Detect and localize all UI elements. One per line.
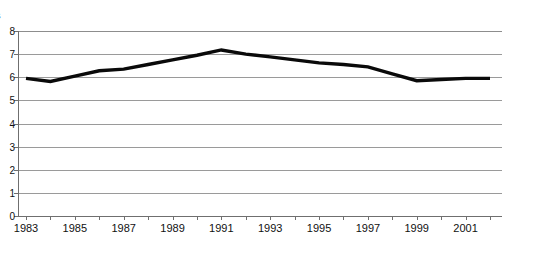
line-chart: llions 876543210 19831985198719891991199… bbox=[0, 0, 533, 256]
x-axis-label: 1997 bbox=[356, 222, 380, 234]
y-axis-label: 3 bbox=[9, 142, 15, 153]
y-axis-label: 0 bbox=[9, 211, 15, 222]
x-axis-label: 1995 bbox=[307, 222, 331, 234]
x-axis-label: 1985 bbox=[63, 222, 87, 234]
x-axis-label: 1999 bbox=[404, 222, 428, 234]
x-axis-label: 1993 bbox=[258, 222, 282, 234]
y-axis-label: 4 bbox=[9, 119, 15, 130]
y-axis-label: 5 bbox=[9, 95, 15, 106]
y-axis-label: 2 bbox=[9, 165, 15, 176]
series-line-1 bbox=[26, 50, 490, 81]
y-axis-label: 7 bbox=[9, 49, 15, 60]
plot-area: 876543210 bbox=[18, 31, 502, 217]
x-axis-label: 2001 bbox=[453, 222, 477, 234]
y-axis-caption: llions bbox=[0, 9, 1, 21]
y-axis-label: 8 bbox=[9, 26, 15, 37]
y-axis-label: 6 bbox=[9, 72, 15, 83]
x-axis-label: 1983 bbox=[14, 222, 38, 234]
x-axis-label: 1989 bbox=[160, 222, 184, 234]
x-axis-label: 1991 bbox=[209, 222, 233, 234]
data-series-layer bbox=[18, 31, 502, 217]
y-axis-label: 1 bbox=[9, 188, 15, 199]
x-axis-label: 1987 bbox=[111, 222, 135, 234]
